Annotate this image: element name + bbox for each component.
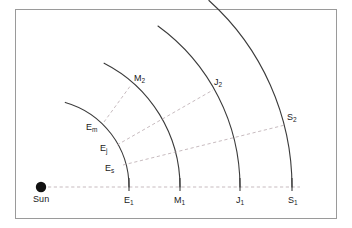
label-M2-subscript: 2 [142, 77, 146, 84]
earth-to-mars [104, 85, 131, 122]
label-Es: Es [105, 164, 114, 173]
saturn-orbit [209, 0, 292, 187]
label-J2-subscript: 2 [219, 81, 223, 88]
label-J2: J2 [214, 78, 222, 87]
label-Em-subscript: m [92, 126, 98, 133]
label-Ej-subscript: j [106, 147, 108, 154]
label-M1-subscript: 1 [182, 199, 186, 206]
label-M1-base: M [174, 195, 182, 205]
label-Em: Em [86, 123, 98, 132]
label-E1: E1 [124, 196, 134, 205]
label-E1-subscript: 1 [130, 199, 134, 206]
label-M1: M1 [174, 196, 185, 205]
earth-orbit [65, 102, 129, 187]
sun-marker [36, 182, 46, 192]
label-J2-base: J [214, 77, 219, 87]
earth-to-jupiter [117, 90, 213, 145]
jupiter-orbit [158, 26, 240, 187]
orbit-arcs [65, 0, 292, 187]
label-S2-subscript: 2 [293, 116, 297, 123]
label-Es-subscript: s [111, 167, 114, 174]
label-J1-subscript: 1 [241, 199, 245, 206]
label-M2-base: M [134, 73, 142, 83]
label-J1: J1 [236, 196, 244, 205]
earth-to-saturn [123, 125, 285, 165]
label-S1-subscript: 1 [294, 199, 298, 206]
sight-lines [104, 85, 285, 165]
label-M2: M2 [134, 74, 145, 83]
label-S1: S1 [288, 196, 298, 205]
diagram-stage: Sun EmEjEsM2J2S2E1M1J1S1 [0, 0, 352, 228]
label-Ej: Ej [100, 144, 108, 153]
orbit-baseline-ticks [129, 178, 292, 191]
label-S2: S2 [287, 113, 297, 122]
diagram-canvas [0, 0, 352, 228]
label-J1-base: J [236, 195, 241, 205]
sun-label: Sun [33, 195, 49, 204]
